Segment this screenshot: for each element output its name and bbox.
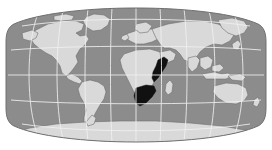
world-map-figure — [0, 0, 272, 150]
land-indonesia — [202, 72, 232, 79]
world-map-svg — [0, 0, 272, 150]
